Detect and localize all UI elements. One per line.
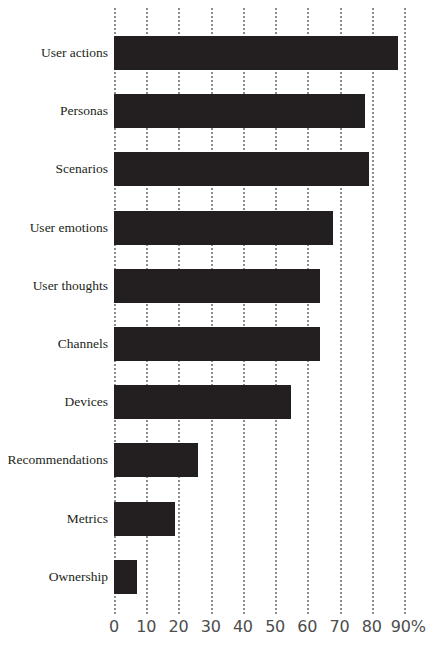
bar-row	[114, 327, 320, 361]
category-label: Devices	[0, 394, 108, 410]
x-tick-label: 70	[330, 617, 350, 636]
category-label: User thoughts	[0, 278, 108, 294]
bar	[114, 152, 369, 186]
x-tick-label: 30	[201, 617, 221, 636]
bars-layer	[114, 0, 428, 614]
x-tick-label: 80	[362, 617, 382, 636]
bar-row	[114, 211, 333, 245]
bar	[114, 443, 198, 477]
bar	[114, 502, 175, 536]
bar	[114, 385, 291, 419]
x-tick-label: 0	[109, 617, 119, 636]
category-axis: User actionsPersonasScenariosUser emotio…	[0, 0, 108, 614]
category-label: Scenarios	[0, 161, 108, 177]
category-label: Personas	[0, 103, 108, 119]
bar-row	[114, 560, 137, 594]
category-label: Recommendations	[0, 452, 108, 468]
x-tick-label: 90%	[391, 617, 426, 636]
bar	[114, 94, 365, 128]
category-label: User actions	[0, 45, 108, 61]
x-tick-label: 60	[297, 617, 317, 636]
bar-chart: User actionsPersonasScenariosUser emotio…	[0, 0, 428, 658]
x-tick-label: 20	[168, 617, 188, 636]
bar-row	[114, 152, 369, 186]
category-label: User emotions	[0, 220, 108, 236]
bar-row	[114, 269, 320, 303]
category-label: Ownership	[0, 569, 108, 585]
bar	[114, 269, 320, 303]
x-tick-label: 40	[233, 617, 253, 636]
bar	[114, 560, 137, 594]
value-axis: 0102030405060708090%	[0, 617, 428, 647]
bar	[114, 327, 320, 361]
bar	[114, 36, 398, 70]
category-label: Channels	[0, 336, 108, 352]
bar	[114, 211, 333, 245]
x-tick-label: 50	[265, 617, 285, 636]
bar-row	[114, 385, 291, 419]
x-tick-label: 10	[136, 617, 156, 636]
bar-row	[114, 36, 398, 70]
bar-row	[114, 443, 198, 477]
category-label: Metrics	[0, 511, 108, 527]
bar-row	[114, 502, 175, 536]
bar-row	[114, 94, 365, 128]
